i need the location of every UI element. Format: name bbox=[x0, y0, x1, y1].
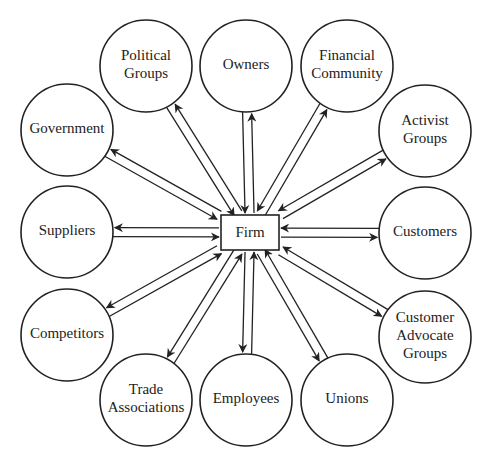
node-label: Suppliers bbox=[39, 222, 96, 238]
stakeholder-diagram: PoliticalGroupsOwnersFinancialCommunityG… bbox=[0, 0, 487, 464]
firm-label: Firm bbox=[235, 224, 265, 240]
arrow-to-firm-financial-community bbox=[257, 103, 320, 211]
node-label: Groups bbox=[403, 345, 447, 361]
node-label: Customer bbox=[396, 309, 454, 325]
node-label: Customers bbox=[393, 223, 457, 239]
node-label: Trade bbox=[129, 381, 164, 397]
node-competitors: Competitors bbox=[21, 289, 113, 381]
arrow-to-activist-groups bbox=[283, 159, 386, 219]
arrow-to-government bbox=[111, 149, 222, 211]
node-employees: Employees bbox=[200, 354, 292, 446]
node-unions: Unions bbox=[301, 354, 393, 446]
node-label: Financial bbox=[319, 47, 375, 63]
arrow-to-firm-competitors bbox=[109, 254, 221, 317]
node-political-groups: PoliticalGroups bbox=[100, 20, 192, 112]
firm-node: Firm bbox=[221, 215, 279, 250]
arrow-to-employees bbox=[243, 252, 245, 352]
arrow-to-firm-owners bbox=[243, 112, 245, 213]
node-customers: Customers bbox=[379, 187, 471, 279]
arrow-to-political-groups bbox=[175, 104, 242, 211]
node-trade-associations: TradeAssociations bbox=[100, 354, 192, 446]
node-label: Groups bbox=[403, 130, 447, 146]
node-suppliers: Suppliers bbox=[21, 186, 113, 278]
node-label: Activist bbox=[401, 112, 449, 128]
arrow-to-owners bbox=[252, 114, 254, 213]
node-financial-community: FinancialCommunity bbox=[301, 20, 393, 112]
arrow-to-firm-trade-associations bbox=[174, 254, 242, 363]
arrow-to-customer-advocate-groups bbox=[278, 255, 381, 317]
node-customer-advocate-groups: CustomerAdvocateGroups bbox=[379, 291, 471, 383]
arrow-to-firm-government bbox=[105, 156, 217, 219]
arrow-to-unions bbox=[257, 254, 319, 361]
node-label: Employees bbox=[213, 390, 280, 406]
node-government: Government bbox=[21, 84, 113, 176]
node-label: Owners bbox=[223, 56, 270, 72]
node-label: Groups bbox=[124, 65, 168, 81]
node-label: Unions bbox=[325, 390, 369, 406]
node-label: Government bbox=[30, 120, 106, 136]
node-activist-groups: ActivistGroups bbox=[379, 85, 471, 177]
arrow-to-firm-customer-advocate-groups bbox=[283, 247, 388, 310]
node-label: Advocate bbox=[396, 327, 454, 343]
node-label: Political bbox=[121, 47, 171, 63]
node-label: Competitors bbox=[30, 325, 104, 341]
arrow-to-competitors bbox=[106, 246, 217, 308]
node-label: Community bbox=[311, 65, 383, 81]
arrow-to-firm-activist-groups bbox=[278, 150, 383, 211]
arrow-to-financial-community bbox=[265, 110, 327, 216]
node-label: Associations bbox=[108, 399, 185, 415]
node-owners: Owners bbox=[200, 20, 292, 112]
arrow-to-firm-employees bbox=[252, 252, 254, 354]
